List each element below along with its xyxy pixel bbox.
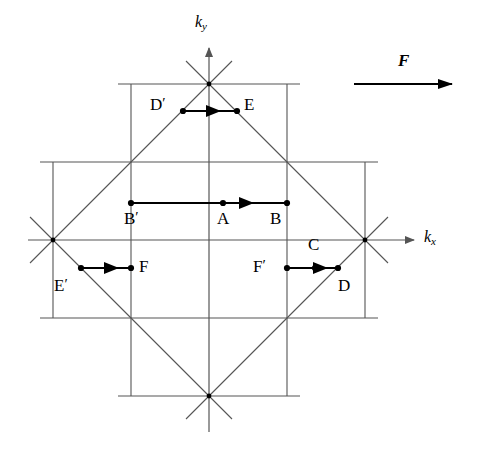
ky-axis-label: ky bbox=[195, 14, 207, 32]
point-label-B: B bbox=[270, 210, 281, 227]
point-marker-E[interactable] bbox=[234, 108, 240, 114]
point-label-E-prime: E′ bbox=[54, 277, 68, 294]
vertex-dot-right bbox=[363, 238, 368, 243]
point-label-B-prime: B′ bbox=[124, 210, 139, 227]
vertex-stub bbox=[209, 61, 232, 84]
point-label-F: F bbox=[139, 258, 148, 275]
vertex-dot-left bbox=[51, 238, 56, 243]
vertex-dot-top bbox=[207, 82, 212, 87]
point-label-E: E bbox=[244, 96, 254, 113]
point-label-D: D bbox=[338, 277, 350, 294]
axes bbox=[28, 48, 414, 432]
point-marker-E-prime[interactable] bbox=[78, 265, 84, 271]
trajectory-arrowheads bbox=[104, 105, 328, 274]
arrowhead-Dprime-E bbox=[206, 105, 221, 117]
point-marker-A[interactable] bbox=[220, 200, 226, 206]
vertex-dot-bottom bbox=[207, 394, 212, 399]
arrowhead-Eprime-F bbox=[104, 262, 119, 274]
point-marker-B[interactable] bbox=[284, 200, 290, 206]
vertex-stub bbox=[209, 396, 232, 419]
point-label-C: C bbox=[308, 236, 319, 253]
vertex-stub bbox=[30, 240, 53, 263]
point-label-F-prime: F′ bbox=[253, 258, 266, 275]
vertex-stub bbox=[186, 61, 209, 84]
kspace-diagram: ky kx F D′ E B′ A B E′ F F′ C D bbox=[0, 0, 478, 452]
point-marker-D[interactable] bbox=[335, 265, 341, 271]
point-marker-B-prime[interactable] bbox=[128, 200, 134, 206]
force-label: F bbox=[398, 52, 409, 69]
point-label-A: A bbox=[217, 210, 229, 227]
vertex-stub bbox=[365, 217, 388, 240]
point-marker-D-prime[interactable] bbox=[180, 108, 186, 114]
point-marker-C[interactable] bbox=[312, 265, 318, 271]
arrowhead-Bprime-B bbox=[239, 197, 254, 209]
kx-axis-label: kx bbox=[424, 229, 436, 247]
vertex-stub bbox=[186, 396, 209, 419]
point-label-D-prime: D′ bbox=[150, 96, 166, 113]
point-marker-F-prime[interactable] bbox=[284, 265, 290, 271]
vertex-stub bbox=[30, 217, 53, 240]
point-marker-F[interactable] bbox=[128, 265, 134, 271]
vertex-stub bbox=[365, 240, 388, 263]
